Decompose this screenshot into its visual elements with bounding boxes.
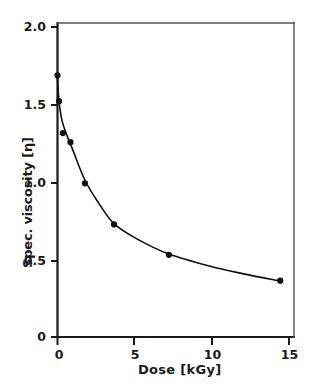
x-tick-label-0: 0: [52, 347, 66, 362]
y-axis-label: Spec. viscosity [η]: [20, 137, 35, 268]
y-tick-label-0: 0: [14, 329, 46, 344]
scatter-plot-canvas: [0, 0, 315, 388]
y-tick-label-2.0: 2.0: [14, 19, 46, 34]
data-point: [54, 72, 60, 78]
x-tick-label-10: 10: [202, 347, 223, 362]
data-point: [277, 278, 283, 284]
x-tick-label-15: 15: [279, 347, 300, 362]
x-axis-ticks: [58, 337, 290, 345]
data-point: [166, 252, 172, 258]
data-point: [82, 180, 88, 186]
data-point: [60, 130, 66, 136]
chart-figure: 2.0 1.5 1.0 0.5 0 0 5 10 15 Spec. viscos…: [0, 0, 315, 388]
x-axis-label: Dose [kGy]: [138, 362, 221, 377]
plot-frame: [57, 22, 295, 338]
fit-curve: [58, 78, 281, 281]
data-point-markers: [54, 72, 283, 284]
data-point: [67, 139, 73, 145]
data-point: [111, 221, 117, 227]
data-point: [56, 98, 62, 104]
y-tick-label-1.5: 1.5: [14, 97, 46, 112]
x-tick-label-5: 5: [128, 347, 142, 362]
